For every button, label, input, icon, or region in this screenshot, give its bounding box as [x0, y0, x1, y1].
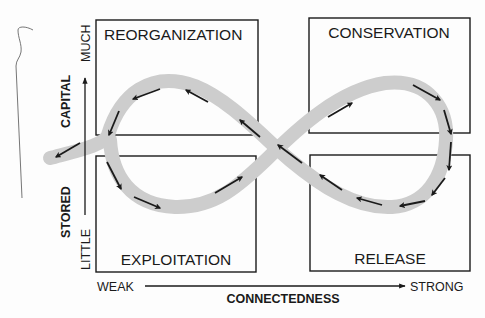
- y-axis-title-capital: CAPITAL: [59, 74, 73, 128]
- cycle-ribbon: [50, 81, 446, 207]
- margin-bracket-mark: [16, 27, 33, 198]
- y-axis-title-stored: STORED: [59, 186, 73, 238]
- x-axis-low-label: WEAK: [97, 280, 134, 294]
- x-axis-title: CONNECTEDNESS: [226, 292, 339, 306]
- x-axis-high-label: STRONG: [410, 280, 463, 294]
- x-axis: WEAK STRONG CONNECTEDNESS: [97, 280, 463, 306]
- y-axis-low-label: LITTLE: [79, 229, 93, 270]
- y-axis-high-label: MUCH: [79, 25, 93, 63]
- phase-label-reorganization: REORGANIZATION: [104, 26, 242, 43]
- adaptive-cycle-diagram: REORGANIZATION CONSERVATION EXPLOITATION…: [0, 0, 485, 318]
- phase-label-exploitation: EXPLOITATION: [121, 251, 232, 268]
- phase-label-conservation: CONSERVATION: [328, 24, 449, 41]
- phase-label-release: RELEASE: [354, 250, 426, 267]
